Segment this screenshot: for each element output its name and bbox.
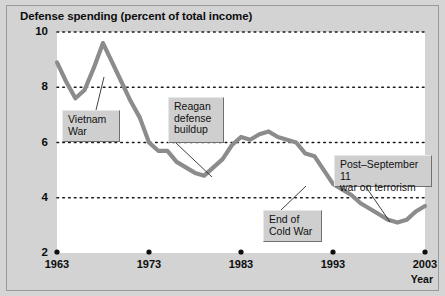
y-axis-label-6: 6 <box>22 136 48 148</box>
x-axis-label-1993: 1993 <box>310 258 356 270</box>
annotation-post-september-11-war-on-terrorism: Post–September 11 war on terrorism <box>334 155 432 187</box>
x-tick-dot-2003 <box>422 249 427 254</box>
chart-canvas <box>0 0 445 296</box>
x-axis-label-1983: 1983 <box>218 258 264 270</box>
x-axis-label-2003: 2003 <box>402 258 445 270</box>
x-tick-dot-1983 <box>238 249 243 254</box>
annotation-end-of-cold-war: End of Cold War <box>263 210 322 242</box>
y-axis-label-10: 10 <box>22 25 48 37</box>
x-axis-label-1973: 1973 <box>126 258 172 270</box>
x-axis-tick-marks <box>54 249 427 254</box>
annotation-reagan-defense-buildup: Reagan defense buildup <box>168 97 224 143</box>
chart-figure: Defense spending (percent of total incom… <box>0 0 445 296</box>
y-axis-label-2: 2 <box>22 246 48 258</box>
x-tick-dot-1973 <box>146 249 151 254</box>
x-tick-dot-1993 <box>330 249 335 254</box>
annotation-leader-lines <box>96 77 390 222</box>
leader-line-vietnam-war <box>96 77 104 110</box>
x-axis-label-1963: 1963 <box>34 258 80 270</box>
y-axis-label-8: 8 <box>22 80 48 92</box>
annotation-vietnam-war: Vietnam War <box>62 110 120 142</box>
x-axis-title: Year <box>411 273 433 285</box>
y-axis-label-4: 4 <box>22 191 48 203</box>
x-tick-dot-1963 <box>54 249 59 254</box>
